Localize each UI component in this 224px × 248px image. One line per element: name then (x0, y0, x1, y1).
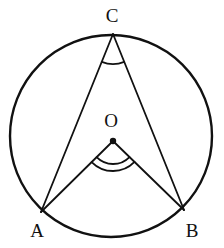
angle-arc-at-c (102, 62, 124, 64)
segment-o-to-a (41, 141, 113, 212)
label-point-c: C (106, 6, 119, 25)
segment-o-to-b (113, 141, 184, 210)
label-point-o: O (104, 111, 118, 130)
segment-c-to-a (41, 34, 113, 212)
label-point-b: B (186, 221, 199, 240)
geometry-diagram: C O A B (0, 0, 224, 248)
segment-c-to-b (113, 34, 184, 210)
center-point-dot (110, 138, 116, 144)
label-point-a: A (30, 221, 44, 240)
angle-arc-inner-at-o (97, 157, 130, 164)
